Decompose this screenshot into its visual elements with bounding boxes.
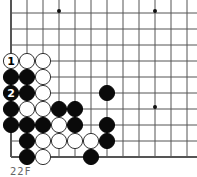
star-point xyxy=(153,105,157,109)
black-stone xyxy=(99,85,114,100)
white-stone xyxy=(35,53,50,68)
white-stone xyxy=(19,101,34,116)
star-point xyxy=(57,9,61,13)
black-stone xyxy=(67,117,82,132)
black-stone xyxy=(3,69,18,84)
black-stone xyxy=(19,85,34,100)
black-stone xyxy=(19,133,34,148)
move-number: 1 xyxy=(7,55,15,68)
white-stone xyxy=(83,133,98,148)
white-stone xyxy=(19,53,34,68)
white-stone xyxy=(35,69,50,84)
black-stone xyxy=(3,101,18,116)
white-stone xyxy=(35,149,50,164)
black-stone xyxy=(67,101,82,116)
star-point xyxy=(153,9,157,13)
white-stone xyxy=(51,117,66,132)
white-stone xyxy=(35,133,50,148)
black-stone xyxy=(83,149,98,164)
white-stone xyxy=(35,101,50,116)
white-stone: 1 xyxy=(3,53,18,68)
white-stone xyxy=(35,85,50,100)
white-stone xyxy=(51,133,66,148)
black-stone xyxy=(19,117,34,132)
black-stone xyxy=(19,149,34,164)
white-stone xyxy=(67,133,82,148)
black-stone xyxy=(19,69,34,84)
diagram-caption: 22F xyxy=(10,166,31,177)
black-stone: 2 xyxy=(3,85,18,100)
black-stone xyxy=(51,101,66,116)
black-stone xyxy=(3,117,18,132)
black-stone xyxy=(99,117,114,132)
go-board: 12 xyxy=(0,0,197,166)
black-stone xyxy=(35,117,50,132)
move-number: 2 xyxy=(7,87,15,100)
black-stone xyxy=(99,133,114,148)
